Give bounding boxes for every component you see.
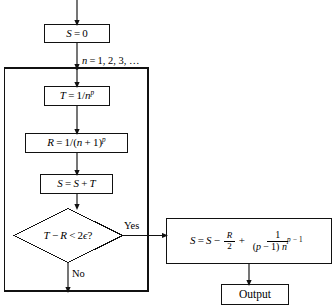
loop-return-path — [5, 68, 149, 291]
process-box-correction — [167, 219, 332, 264]
process-box-r-assign — [26, 134, 128, 153]
flowchart-diagram: S = 0 n = 1, 2, 3, … T = 1/ n p R = 1/( … — [0, 0, 336, 308]
process-box-t-assign — [45, 87, 110, 106]
process-box-init — [45, 25, 110, 43]
process-box-s-accum — [41, 175, 113, 194]
loop-counter-label: n = 1, 2, 3, … — [82, 55, 140, 66]
spine-junction-dots — [75, 66, 78, 69]
terminal-box-output — [222, 285, 289, 305]
edge-label-no: No — [72, 268, 85, 279]
flowchart-connectors-layer — [0, 0, 336, 308]
edge-label-yes: Yes — [124, 220, 139, 231]
loop-counter-values: 1, 2, 3, … — [98, 55, 140, 66]
decision-diamond — [14, 209, 123, 263]
